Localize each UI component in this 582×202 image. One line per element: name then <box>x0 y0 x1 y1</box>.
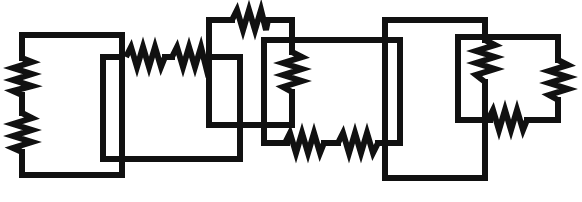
resistor-icon <box>172 47 209 67</box>
resistor-icon <box>283 52 302 92</box>
loop-c <box>209 10 302 125</box>
loop-d <box>264 40 400 153</box>
wire <box>268 20 292 52</box>
resistor-icon <box>476 40 495 82</box>
resistor-icon <box>488 110 527 130</box>
resistor-icon <box>338 133 378 153</box>
resistor-icon <box>232 10 268 30</box>
wire <box>527 100 558 120</box>
resistor-icon <box>549 60 568 100</box>
resistor-icon <box>126 47 165 67</box>
resistor-icon <box>13 113 32 152</box>
circuit-diagram <box>0 0 582 202</box>
resistor-icon <box>13 58 32 95</box>
wire <box>209 20 292 125</box>
resistor-icon <box>285 133 324 153</box>
